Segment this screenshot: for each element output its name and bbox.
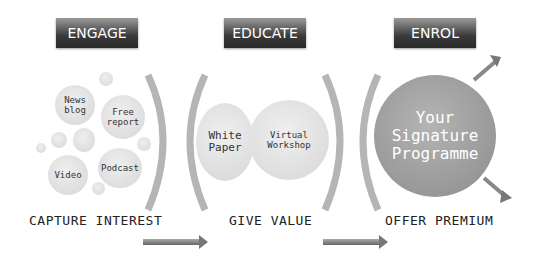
- bubble-free-report: Free report: [101, 95, 145, 139]
- bubble-signature-programme: Your Signature Programme: [374, 75, 496, 197]
- small-bubble: [137, 137, 151, 151]
- footer-give-value: GIVE VALUE: [229, 213, 312, 228]
- bubble-virtual-workshop: Virtual Workshop: [249, 100, 329, 180]
- header-educate: EDUCATE: [224, 18, 306, 48]
- header-engage: ENGAGE: [56, 18, 138, 48]
- bubble-podcast: Podcast: [98, 148, 142, 188]
- bubble-video: Video: [48, 155, 88, 195]
- header-enrol: ENROL: [394, 18, 476, 48]
- bubble-news-blog: News blog: [55, 85, 95, 125]
- small-bubble: [99, 72, 113, 86]
- small-bubble: [51, 132, 67, 148]
- footer-capture-interest: CAPTURE INTEREST: [29, 213, 162, 228]
- small-bubble: [92, 182, 105, 195]
- bubble-white-paper: White Paper: [196, 103, 254, 181]
- footer-offer-premium: OFFER PREMIUM: [385, 213, 493, 228]
- arrow-right-2: [323, 235, 388, 249]
- small-bubble: [36, 143, 46, 153]
- small-bubble: [73, 128, 95, 152]
- arrow-right-1: [143, 235, 208, 249]
